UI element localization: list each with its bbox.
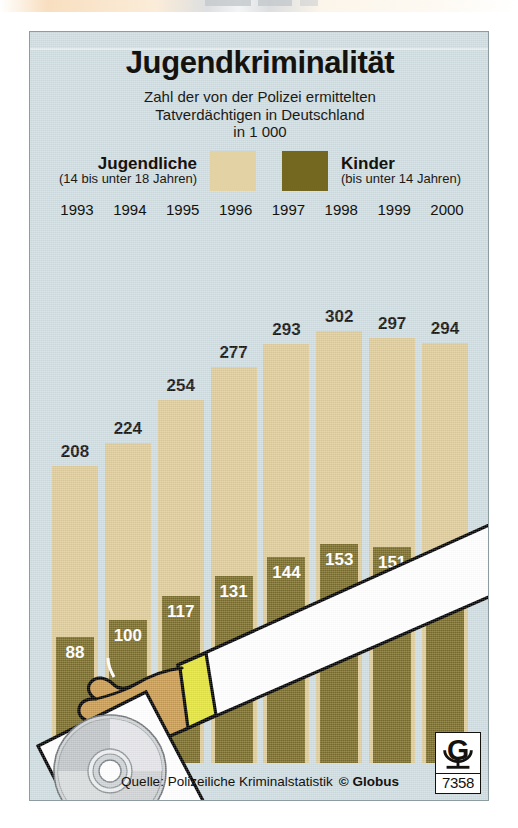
- value-label-kinder-1994: 100: [105, 627, 151, 644]
- value-label-jugendliche-1997: 293: [263, 321, 309, 338]
- legend-label-kinder: Kinder: [341, 156, 395, 171]
- value-label-jugendliche-1994: 224: [105, 420, 151, 437]
- legend-sublabel-kinder: (bis unter 14 Jahren): [341, 171, 461, 186]
- bar-group-1997: 293144: [263, 223, 309, 763]
- globus-logo: G 7358: [435, 732, 481, 794]
- subtitle-line-2: Tatverdächtigen in Deutschland: [30, 106, 489, 124]
- x-axis-label-1994: 1994: [105, 201, 155, 218]
- value-label-jugendliche-1995: 254: [158, 377, 204, 394]
- infographic-poster: Jugendkriminalität Zahl der von der Poli…: [29, 31, 489, 801]
- value-label-jugendliche-1998: 302: [316, 308, 362, 325]
- bar-kinder-1996: [215, 576, 253, 763]
- value-label-kinder-1993: 88: [52, 644, 98, 661]
- subtitle: Zahl der von der Polizei ermittelten Tat…: [30, 88, 489, 141]
- legend-swatch-jugendliche: [210, 151, 256, 191]
- legend-label-jugendliche: Jugendliche: [98, 156, 197, 171]
- source-text: Quelle: Polizeiliche Kriminalstatistik: [121, 774, 333, 789]
- value-label-jugendliche-1996: 277: [211, 344, 257, 361]
- value-label-jugendliche-1993: 208: [52, 443, 98, 460]
- bar-group-2000: 294146: [422, 223, 468, 763]
- source-line: Quelle: Polizeiliche Kriminalstatistik© …: [30, 774, 489, 789]
- scan-artifact-blocks: [0, 0, 518, 8]
- subtitle-line-3: in 1 000: [30, 123, 489, 141]
- globus-globe-icon: G: [435, 732, 481, 774]
- legend-swatch-kinder: [282, 151, 328, 191]
- x-axis-year-labels: 19931994199519961997199819992000: [30, 201, 489, 223]
- bar-group-1994: 224100: [105, 223, 151, 763]
- value-label-kinder-1998: 153: [316, 551, 362, 568]
- value-label-jugendliche-1999: 297: [369, 315, 415, 332]
- bar-group-1995: 254117: [158, 223, 204, 763]
- subtitle-line-1: Zahl der von der Polizei ermittelten: [30, 88, 489, 106]
- chart-legend: Jugendliche (14 bis unter 18 Jahren) Kin…: [30, 151, 489, 191]
- bar-kinder-1995: [162, 596, 200, 763]
- bar-group-1998: 302153: [316, 223, 362, 763]
- legend-item-jugendliche: Jugendliche (14 bis unter 18 Jahren): [59, 156, 197, 186]
- value-label-jugendliche-2000: 294: [422, 320, 468, 337]
- bar-group-1999: 297151: [369, 223, 415, 763]
- bar-kinder-1998: [320, 544, 358, 763]
- x-axis-label-1997: 1997: [263, 201, 313, 218]
- x-axis-label-2000: 2000: [422, 201, 472, 218]
- value-label-kinder-1996: 131: [211, 583, 257, 600]
- bar-kinder-1999: [373, 547, 411, 763]
- value-label-kinder-1999: 151: [369, 554, 415, 571]
- x-axis-label-1998: 1998: [316, 201, 366, 218]
- legend-item-kinder: Kinder (bis unter 14 Jahren): [341, 156, 461, 186]
- value-label-kinder-1995: 117: [158, 603, 204, 620]
- legend-sublabel-jugendliche: (14 bis unter 18 Jahren): [59, 171, 197, 186]
- value-label-kinder-2000: 146: [422, 561, 468, 578]
- copyright-text: © Globus: [339, 774, 399, 789]
- x-axis-label-1999: 1999: [369, 201, 419, 218]
- x-axis-label-1995: 1995: [158, 201, 208, 218]
- bar-group-1993: 20888: [52, 223, 98, 763]
- bar-chart-plot-area: 2088822410025411727713129314430215329715…: [30, 223, 489, 763]
- bar-kinder-1997: [267, 557, 305, 763]
- x-axis-label-1993: 1993: [52, 201, 102, 218]
- page-title: Jugendkriminalität: [30, 45, 489, 81]
- value-label-kinder-1997: 144: [263, 564, 309, 581]
- globus-number: 7358: [435, 774, 481, 794]
- x-axis-label-1996: 1996: [211, 201, 261, 218]
- bar-group-1996: 277131: [211, 223, 257, 763]
